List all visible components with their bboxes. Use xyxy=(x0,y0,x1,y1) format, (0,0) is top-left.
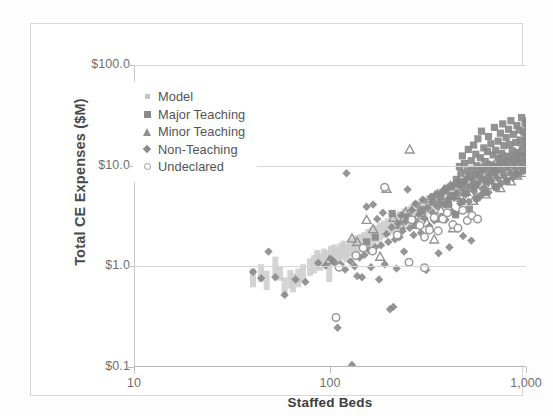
model-marker-icon xyxy=(139,94,155,99)
undeclared-marker xyxy=(459,207,467,215)
undeclared-marker xyxy=(394,231,402,239)
legend-label: Undeclared xyxy=(158,159,224,174)
y-axis-tick-label: $1.0 xyxy=(70,258,130,272)
chart-screenshot: Total CE Expenses ($M) Model Major Teach… xyxy=(0,0,553,416)
non-teaching-marker xyxy=(369,200,377,208)
undeclared-marker xyxy=(430,214,438,222)
legend-label: Major Teaching xyxy=(158,107,245,122)
major-teaching-marker xyxy=(459,152,466,159)
undeclared-marker xyxy=(332,314,340,322)
chart-frame: Total CE Expenses ($M) Model Major Teach… xyxy=(30,23,523,396)
y-axis-tick-mark xyxy=(128,65,134,66)
major-teaching-marker xyxy=(523,124,526,131)
open-circle-marker-icon xyxy=(139,163,155,170)
major-teaching-marker xyxy=(470,142,477,149)
y-axis-tick-label: $10.0 xyxy=(70,158,130,172)
major-teaching-marker xyxy=(474,135,481,142)
minor-teaching-marker xyxy=(405,145,414,153)
major-teaching-marker xyxy=(487,140,494,147)
non-teaching-marker xyxy=(445,243,453,251)
undeclared-marker xyxy=(416,222,424,230)
major-teaching-marker xyxy=(503,134,510,141)
major-teaching-marker xyxy=(485,133,492,140)
undeclared-marker xyxy=(444,209,452,217)
diamond-marker-icon xyxy=(139,146,155,152)
non-teaching-marker xyxy=(381,260,389,268)
undeclared-marker xyxy=(426,226,434,234)
non-teaching-marker xyxy=(362,203,370,211)
legend-label: Model xyxy=(158,89,193,104)
non-teaching-marker xyxy=(367,263,375,271)
undeclared-marker xyxy=(381,184,389,192)
non-teaching-marker xyxy=(459,232,467,240)
non-teaching-marker xyxy=(403,185,411,193)
y-axis-tick-mark xyxy=(128,266,134,267)
series-non-teaching xyxy=(249,147,526,367)
major-teaching-marker xyxy=(523,117,526,124)
legend-item-major-teaching: Major Teaching xyxy=(139,106,245,124)
legend-item-undeclared: Undeclared xyxy=(139,158,245,176)
x-axis-title: Staffed Beds xyxy=(134,395,526,410)
non-teaching-marker xyxy=(384,238,392,246)
non-teaching-marker xyxy=(400,247,408,255)
y-axis-tick-label: $100.0 xyxy=(70,57,130,71)
legend-item-model: Model xyxy=(139,88,245,106)
y-axis-tick-label: $0.1 xyxy=(70,359,130,373)
x-axis-tick-label: 10 xyxy=(104,376,164,390)
chart-legend: Model Major Teaching Minor Teaching Non-… xyxy=(133,82,257,182)
legend-label: Minor Teaching xyxy=(158,124,245,139)
undeclared-marker xyxy=(369,247,377,255)
major-teaching-marker xyxy=(523,138,526,145)
non-teaching-marker xyxy=(333,324,341,332)
x-axis-tick-mark xyxy=(526,367,527,373)
legend-label: Non-Teaching xyxy=(158,142,238,157)
non-teaching-marker xyxy=(379,209,387,217)
major-teaching-marker xyxy=(457,170,464,177)
non-teaching-marker xyxy=(264,247,272,255)
legend-item-minor-teaching: Minor Teaching xyxy=(139,123,245,141)
non-teaching-marker xyxy=(373,215,381,223)
model-range-bar xyxy=(264,271,270,290)
minor-teaching-marker xyxy=(430,235,439,243)
square-marker-icon xyxy=(139,111,155,118)
x-axis-tick-mark xyxy=(134,367,135,373)
x-axis-tick-label: 1,000 xyxy=(496,376,553,390)
triangle-marker-icon xyxy=(139,128,155,136)
undeclared-marker xyxy=(359,244,367,252)
legend-item-non-teaching: Non-Teaching xyxy=(139,141,245,159)
non-teaching-marker xyxy=(342,169,350,177)
non-teaching-marker xyxy=(409,231,417,239)
non-teaching-marker xyxy=(375,275,383,283)
undeclared-marker xyxy=(434,227,442,235)
undeclared-marker xyxy=(405,258,413,266)
undeclared-marker xyxy=(421,233,429,241)
non-teaching-marker xyxy=(434,249,442,257)
undeclared-marker xyxy=(454,224,462,232)
gridline xyxy=(135,65,526,66)
non-teaching-marker xyxy=(467,236,475,244)
gridline xyxy=(135,266,526,267)
undeclared-marker xyxy=(474,215,482,223)
minor-teaching-marker xyxy=(376,252,385,260)
non-teaching-marker xyxy=(348,361,356,367)
major-teaching-marker xyxy=(478,128,485,135)
major-teaching-marker xyxy=(372,234,379,241)
minor-teaching-marker xyxy=(362,215,371,223)
x-axis-tick-mark xyxy=(330,367,331,373)
undeclared-marker xyxy=(408,216,416,224)
undeclared-marker xyxy=(335,263,343,271)
undeclared-marker xyxy=(352,252,360,260)
x-axis-tick-label: 100 xyxy=(300,376,360,390)
